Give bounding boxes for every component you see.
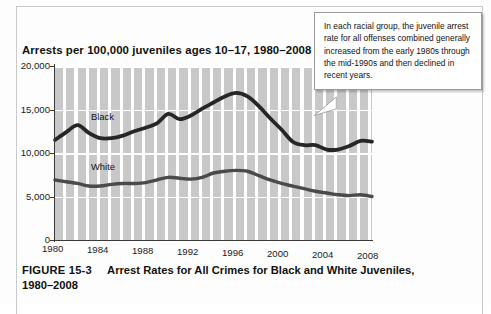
x-tick-label-1980: 1980 — [42, 243, 63, 254]
x-tick-label-1996: 1996 — [222, 247, 243, 258]
callout-text: In each racial group, the juvenile arres… — [324, 20, 472, 81]
x-tick-label-2004: 2004 — [312, 249, 333, 260]
x-tick-label-1988: 1988 — [132, 245, 153, 256]
figure-caption-line1: Arrest Rates for All Crimes for Black an… — [107, 264, 414, 276]
x-tick-label-1992: 1992 — [177, 246, 198, 257]
figure-caption-line2: 1980–2008 — [22, 279, 78, 291]
x-tick-label-1984: 1984 — [87, 244, 108, 255]
callout-box: In each racial group, the juvenile arres… — [314, 12, 482, 90]
x-tick-label-2008: 2008 — [357, 250, 378, 261]
callout-tail — [314, 97, 340, 119]
x-tick-label-2000: 2000 — [267, 248, 288, 259]
figure-number: FIGURE 15-3 — [22, 264, 92, 276]
figure-caption: FIGURE 15-3 Arrest Rates for All Crimes … — [22, 263, 452, 292]
